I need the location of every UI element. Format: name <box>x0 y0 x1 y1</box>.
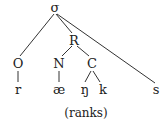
segment-r: r <box>15 82 22 97</box>
edge-syllable-s <box>57 14 155 83</box>
edge-syllable-rhyme <box>56 14 72 33</box>
diagram-caption: (ranks) <box>64 106 107 120</box>
segment-ng: ŋ <box>81 82 89 97</box>
segment-k: k <box>99 82 107 97</box>
syllable-tree-diagram: σ R O N C r æ ŋ k s (ranks) <box>0 0 167 124</box>
edge-syllable-onset <box>20 14 54 56</box>
node-nucleus: N <box>53 56 64 71</box>
node-onset: O <box>13 56 24 71</box>
segment-ae: æ <box>53 82 65 97</box>
edge-coda-k <box>93 71 100 82</box>
node-rhyme: R <box>69 33 80 48</box>
edge-coda-ng <box>85 71 91 82</box>
segment-s: s <box>153 82 160 97</box>
node-syllable: σ <box>51 0 60 15</box>
node-coda: C <box>87 56 97 71</box>
